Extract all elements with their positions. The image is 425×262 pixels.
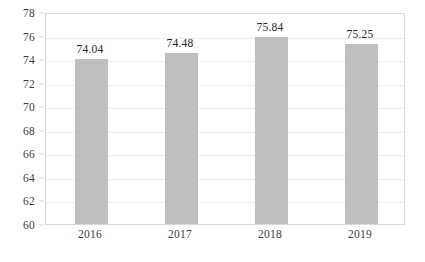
y-axis-tick-mark [39, 177, 44, 178]
y-axis-tick-label: 72 [23, 78, 35, 90]
y-axis: 78767472706866646260 [0, 13, 41, 225]
y-axis-tick-mark [39, 107, 44, 108]
y-axis-tick-mark [39, 130, 44, 131]
y-axis-tick-label: 78 [23, 7, 35, 19]
bar-2019[interactable] [345, 44, 378, 224]
x-axis-tick-label-2017: 2017 [168, 228, 192, 240]
y-axis-tick-label: 62 [23, 195, 35, 207]
x-axis: 2016201720182019 [45, 228, 405, 250]
x-axis-tick-label-2018: 2018 [258, 228, 282, 240]
gridline [46, 38, 404, 39]
y-axis-tick-label: 68 [23, 125, 35, 137]
bar-2016[interactable] [75, 59, 108, 224]
y-axis-tick-mark [39, 13, 44, 14]
y-axis-tick-mark [39, 60, 44, 61]
y-axis-tick-label: 74 [23, 54, 35, 66]
y-axis-tick-mark [39, 36, 44, 37]
y-axis-tick-mark [39, 225, 44, 226]
y-axis-tick-label: 76 [23, 31, 35, 43]
bar-2017[interactable] [165, 53, 198, 224]
y-axis-tick-mark [39, 201, 44, 202]
y-axis-tick-label: 70 [23, 101, 35, 113]
bar-2018[interactable] [255, 37, 288, 224]
y-axis-tick-label: 64 [23, 172, 35, 184]
x-axis-tick-label-2019: 2019 [348, 228, 372, 240]
y-axis-tick-label: 66 [23, 148, 35, 160]
y-axis-tick-mark [39, 83, 44, 84]
x-axis-tick-label-2016: 2016 [78, 228, 102, 240]
bar-chart: 78767472706866646260 74.0474.4875.8475.2… [0, 0, 425, 262]
y-axis-tick-mark [39, 154, 44, 155]
y-axis-tick-label: 60 [23, 219, 35, 231]
plot-area [45, 13, 405, 225]
